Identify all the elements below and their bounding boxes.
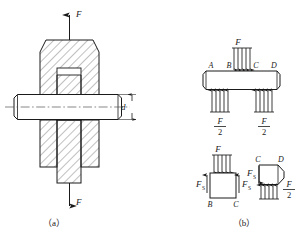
fbd-cd-reaction-numerator: F	[285, 179, 292, 189]
lower-center-tongue	[57, 117, 81, 183]
fbd-cd-reaction-fraction: F 2	[283, 179, 295, 200]
pin-point-label-A: A	[208, 61, 214, 70]
fbd-cd-label-C: C	[255, 155, 261, 164]
panel-a-top-force-label: F	[75, 9, 82, 19]
engineering-figure: F	[0, 0, 301, 237]
fbd-bc-left-shear-label: F S	[195, 179, 205, 191]
pin-point-label-C: C	[253, 61, 259, 70]
pin-point-label-B: B	[227, 61, 232, 70]
pin-loading-diagram: F A B C D F	[203, 37, 280, 137]
fbd-cd-reaction-arrows	[259, 185, 279, 199]
panel-a-group: F	[5, 9, 136, 228]
left-reaction-fraction: F 2	[214, 116, 226, 137]
panel-b-group: F A B C D F	[195, 37, 295, 228]
fbd-cd-reaction-denominator: 2	[287, 190, 291, 200]
fbd-bc-right-shear-label: F S	[241, 179, 251, 191]
pin-body-outline	[203, 71, 280, 90]
fbd-cd-shear-symbol: F	[246, 168, 253, 178]
fbd-bc-load-label: F	[214, 144, 221, 154]
right-reaction-arrows	[254, 90, 274, 112]
fbd-bc-block	[210, 173, 236, 198]
right-reaction-numerator: F	[260, 116, 267, 126]
fbd-cd-label-D: D	[277, 155, 284, 164]
fbd-bc-left-shear-subscript: S	[202, 185, 205, 191]
pin-point-label-D: D	[270, 61, 277, 70]
fbd-bc-left-shear-symbol: F	[195, 179, 202, 189]
fbd-bc-top-load-arrows	[212, 155, 232, 173]
caption-a: （a）	[43, 218, 65, 228]
fbd-cd-block	[259, 165, 284, 185]
fbd-cd-shear-subscript: S	[253, 174, 256, 180]
left-reaction-arrows	[210, 90, 230, 112]
top-distributed-load-F	[232, 48, 252, 70]
fbd-segment-cd: C D F S F 2	[246, 155, 295, 200]
left-reaction-denominator: 2	[218, 127, 222, 137]
pin-top-load-label: F	[234, 37, 241, 47]
fbd-cd-shear-label: F S	[246, 168, 256, 180]
fbd-segment-bc: F F S F S B C	[195, 144, 251, 209]
panel-a-bottom-force-label: F	[75, 197, 82, 207]
panel-a-diameter-label: d	[121, 102, 126, 112]
figure-canvas: F	[0, 0, 301, 237]
caption-b: （b）	[233, 218, 256, 228]
left-reaction-numerator: F	[216, 116, 223, 126]
right-reaction-fraction: F 2	[258, 116, 270, 137]
right-reaction-denominator: 2	[262, 127, 266, 137]
fbd-bc-label-B: B	[208, 200, 213, 209]
fbd-bc-label-C: C	[233, 200, 239, 209]
fbd-bc-right-shear-symbol: F	[241, 179, 248, 189]
fbd-bc-right-shear-subscript: S	[248, 185, 251, 191]
